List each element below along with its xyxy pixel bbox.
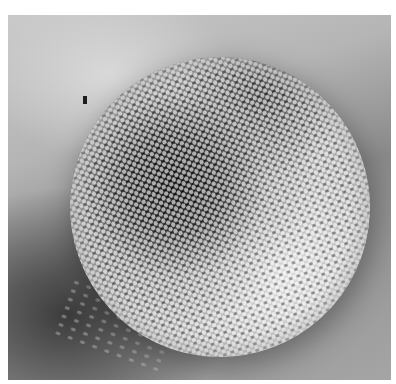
debris-particle bbox=[83, 96, 87, 104]
micrograph-photo bbox=[8, 15, 391, 380]
